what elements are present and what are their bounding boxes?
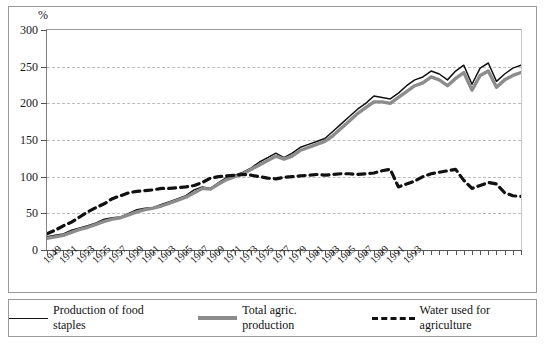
y-axis-unit-label: % [38, 8, 48, 23]
x-axis-tick [480, 251, 481, 255]
y-axis-tick-label: 100 [0, 169, 38, 184]
series-line-solid-thick [47, 71, 521, 238]
x-axis-tick [472, 251, 473, 255]
x-axis-tick [456, 251, 457, 255]
x-axis-tick [423, 251, 424, 255]
y-axis-tick-label: 250 [0, 59, 38, 74]
legend-item[interactable]: Production of food staples [9, 303, 170, 333]
legend: Production of food staplesTotal agric. p… [8, 299, 537, 337]
y-axis-tick-label: 200 [0, 96, 38, 111]
x-axis-tick [439, 251, 440, 255]
legend-label: Water used for agriculture [420, 303, 536, 333]
y-axis-tick-label: 150 [0, 133, 38, 148]
legend-swatch-dashed [372, 317, 415, 320]
legend-item[interactable]: Total agric. production [198, 303, 344, 333]
legend-swatch-solid-thin [9, 318, 48, 319]
series-line-solid-thin [47, 63, 521, 237]
legend-label: Total agric. production [242, 303, 344, 333]
plot-right-border [521, 29, 522, 251]
x-axis-tick [521, 251, 522, 255]
x-axis-tick [513, 251, 514, 255]
series-line-dashed [47, 169, 521, 234]
y-axis-tick-label: 50 [0, 206, 38, 221]
plot-area [47, 30, 521, 250]
series-canvas [47, 30, 521, 250]
x-axis-tick [464, 251, 465, 255]
x-axis-tick [488, 251, 489, 255]
y-axis-tick-label: 0 [0, 243, 38, 258]
legend-item[interactable]: Water used for agriculture [372, 303, 536, 333]
legend-label: Production of food staples [53, 303, 170, 333]
chart-root: % 050100150200250300 1949195119531955195… [0, 0, 546, 344]
x-axis-tick [505, 251, 506, 255]
legend-swatch-solid-thick [198, 316, 237, 320]
y-axis-tick-label: 300 [0, 23, 38, 38]
x-axis-tick [431, 251, 432, 255]
x-axis-tick [447, 251, 448, 255]
x-axis-tick [496, 251, 497, 255]
